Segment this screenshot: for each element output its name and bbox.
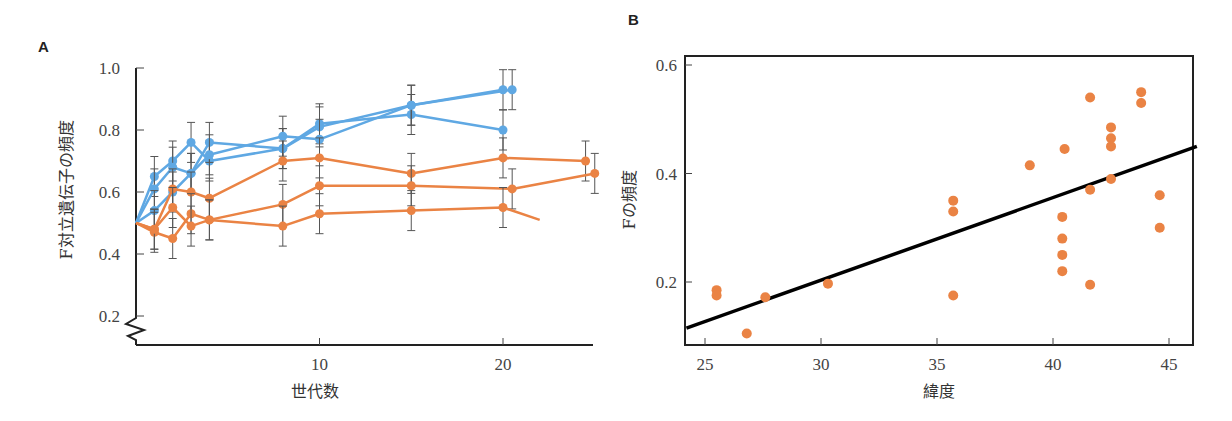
scatter-point <box>1085 93 1095 103</box>
data-point <box>499 126 508 135</box>
data-point <box>278 222 287 231</box>
series-line-blue-3 <box>136 90 512 223</box>
y-tick-label: 0.8 <box>99 121 120 140</box>
data-point <box>315 153 324 162</box>
x-tick-label: 35 <box>929 355 946 374</box>
chart-panel-a: A 0.20.40.60.81.01020世代数F対立遺伝子の頻度 <box>0 0 616 421</box>
scatter-point <box>948 291 958 301</box>
scatter-point <box>948 206 958 216</box>
y-tick-label: 0.4 <box>656 165 678 184</box>
scatter-point <box>1106 122 1116 132</box>
scatter-point <box>1057 250 1067 260</box>
data-point <box>187 138 196 147</box>
data-point <box>168 234 177 243</box>
scatter-point <box>742 329 752 339</box>
x-tick-label: 45 <box>1161 355 1178 374</box>
data-point <box>581 157 590 166</box>
y-tick-label: 0.6 <box>99 183 120 202</box>
scatter-point <box>1106 174 1116 184</box>
scatter-point <box>1085 185 1095 195</box>
scatter-point <box>1155 223 1165 233</box>
data-point <box>499 203 508 212</box>
data-point <box>508 85 517 94</box>
series-line-orange-2 <box>136 173 595 238</box>
y-tick-label: 1.0 <box>99 59 120 78</box>
scatter-point <box>823 279 833 289</box>
y-tick-label: 0.6 <box>656 56 677 75</box>
data-point <box>187 222 196 231</box>
scatter-point <box>712 291 722 301</box>
x-tick-label: 10 <box>311 355 328 374</box>
x-tick-label: 30 <box>813 355 830 374</box>
data-point <box>407 181 416 190</box>
x-tick-label: 40 <box>1045 355 1062 374</box>
scatter-point <box>1057 266 1067 276</box>
scatter-point <box>760 292 770 302</box>
data-point <box>315 181 324 190</box>
y-tick-label: 0.2 <box>99 307 120 326</box>
data-point <box>205 150 214 159</box>
scatter-point <box>1025 160 1035 170</box>
y-tick-label: 0.4 <box>99 245 121 264</box>
scatter-point <box>1057 234 1067 244</box>
x-tick-label: 20 <box>495 355 512 374</box>
y-axis-title: Fの頻度 <box>620 170 639 229</box>
scatter-point <box>1136 98 1146 108</box>
x-axis-title: 緯度 <box>923 382 955 401</box>
data-point <box>150 225 159 234</box>
scatter-point <box>1057 212 1067 222</box>
x-tick-label: 25 <box>697 355 714 374</box>
data-point <box>508 184 517 193</box>
chart-panel-b: B 0.20.40.62530354045緯度Fの頻度 <box>616 0 1232 421</box>
scatter-chart-latitude: 0.20.40.62530354045緯度Fの頻度 <box>616 0 1232 421</box>
data-point <box>278 132 287 141</box>
scatter-point <box>1060 144 1070 154</box>
x-axis-title: 世代数 <box>291 382 339 401</box>
y-tick-label: 0.2 <box>656 273 677 292</box>
scatter-point <box>1136 87 1146 97</box>
data-point <box>168 203 177 212</box>
line-chart-generations: 0.20.40.60.81.01020世代数F対立遺伝子の頻度 <box>0 0 616 421</box>
scatter-point <box>1085 280 1095 290</box>
data-point <box>407 206 416 215</box>
data-point <box>499 153 508 162</box>
data-point <box>407 101 416 110</box>
scatter-point <box>1106 141 1116 151</box>
series-line-orange-3 <box>136 208 540 230</box>
scatter-point <box>948 196 958 206</box>
data-point <box>278 157 287 166</box>
scatter-point <box>1155 190 1165 200</box>
data-point <box>205 215 214 224</box>
y-axis-title: F対立遺伝子の頻度 <box>57 120 76 259</box>
data-point <box>315 209 324 218</box>
data-point <box>590 169 599 178</box>
